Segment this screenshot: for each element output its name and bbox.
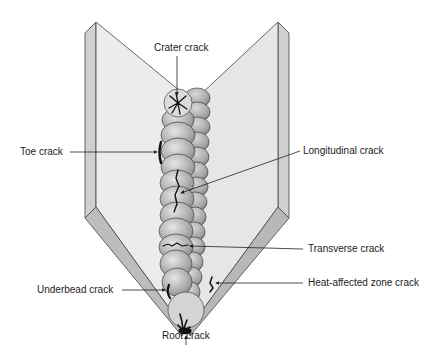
label-transverse-crack: Transverse crack <box>308 243 384 255</box>
label-haz-crack: Heat-affected zone crack <box>308 277 419 289</box>
label-longitudinal-crack: Longitudinal crack <box>303 145 384 157</box>
label-crater-crack: Crater crack <box>154 42 208 54</box>
label-root-crack: Root crack <box>162 330 210 342</box>
weld-diagram <box>0 0 440 354</box>
label-underbead-crack: Underbead crack <box>37 284 113 296</box>
label-toe-crack: Toe crack <box>20 146 63 158</box>
